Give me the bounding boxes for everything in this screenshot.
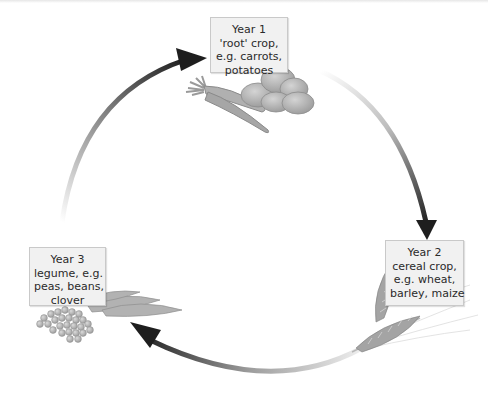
stage-description-line: potatoes: [215, 64, 283, 78]
stage-description-line: cereal crop,: [390, 260, 459, 274]
stage-description-line: barley, maize: [390, 287, 459, 301]
stage-description-line: peas, beans,: [34, 280, 101, 294]
arrow-year3-to-year1: [62, 48, 207, 222]
stage-box-year-3: Year 3 legume, e.g. peas, beans, clover: [29, 247, 106, 306]
stage-description-line: 'root' crop,: [215, 37, 283, 51]
stage-year-label: Year 3: [34, 253, 101, 267]
stage-box-year-1: Year 1 'root' crop, e.g. carrots, potato…: [210, 17, 288, 73]
stage-box-year-2: Year 2 cereal crop, e.g. wheat, barley, …: [385, 240, 464, 306]
stage-description-line: clover: [34, 294, 101, 308]
stage-description-line: legume, e.g.: [34, 267, 101, 281]
stage-year-label: Year 2: [390, 246, 459, 260]
arrow-year2-to-year3: [130, 322, 362, 371]
stage-year-label: Year 1: [215, 23, 283, 37]
stage-description-line: e.g. carrots,: [215, 50, 283, 64]
arrow-year1-to-year2: [318, 70, 437, 240]
stage-description-line: e.g. wheat,: [390, 273, 459, 287]
